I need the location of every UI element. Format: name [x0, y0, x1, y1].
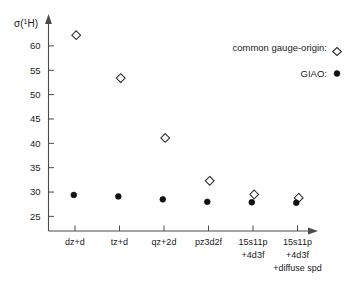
x-tick-group — [75, 226, 298, 232]
legend: common gauge-origin: GIAO: — [232, 42, 341, 79]
x-tick-label: 15s11p — [283, 237, 312, 247]
x-tick-label: qz+2d — [152, 237, 177, 247]
y-tick-group: 2530354045505560 — [30, 40, 54, 221]
x-tick-label: dz+d — [65, 237, 85, 247]
data-series-giao — [71, 192, 299, 206]
x-axis-arrowhead — [308, 228, 318, 235]
data-point-filled-circle — [249, 199, 255, 205]
data-point-open-diamond — [205, 176, 214, 185]
x-tick-label: pz3d2f — [195, 237, 223, 247]
data-series-layer — [71, 31, 303, 206]
data-point-open-diamond — [72, 31, 81, 40]
data-series-common-gauge-origin — [72, 31, 303, 202]
data-point-open-diamond — [250, 190, 259, 199]
y-axis — [45, 14, 52, 231]
y-tick-label: 30 — [30, 186, 41, 197]
data-point-open-diamond — [116, 74, 125, 83]
y-axis-title: σ(1H) — [14, 18, 38, 30]
x-label-group: dz+dtz+dqz+2dpz3d2f15s11p+4d3f15s11p+4d3… — [65, 237, 322, 273]
x-tick-label: +diffuse spd — [273, 263, 322, 273]
legend-label-giao: GIAO: — [301, 68, 327, 79]
data-point-filled-circle — [204, 199, 210, 205]
data-point-filled-circle — [115, 194, 121, 200]
data-point-filled-circle — [293, 200, 299, 206]
x-tick-label: +4d3f — [242, 250, 265, 260]
y-tick-label: 40 — [30, 138, 41, 149]
y-tick-label: 25 — [30, 211, 41, 222]
data-point-filled-circle — [71, 192, 77, 198]
legend-marker-filled-circle-icon — [334, 71, 340, 77]
x-tick-label: tz+d — [111, 237, 128, 247]
y-tick-label: 60 — [30, 40, 41, 51]
y-tick-label: 50 — [30, 89, 41, 100]
y-tick-label: 35 — [30, 162, 41, 173]
x-axis — [49, 228, 319, 235]
y-axis-arrowhead — [45, 14, 52, 24]
chart-figure: 2530354045505560 dz+dtz+dqz+2dpz3d2f15s1… — [0, 0, 347, 291]
legend-marker-open-diamond-icon — [333, 48, 342, 56]
data-point-filled-circle — [160, 196, 166, 202]
x-tick-label: +4d3f — [286, 250, 309, 260]
y-axis-title-tail: H) — [27, 18, 38, 29]
scatter-plot: 2530354045505560 dz+dtz+dqz+2dpz3d2f15s1… — [0, 0, 347, 291]
y-tick-label: 55 — [30, 65, 41, 76]
y-tick-label: 45 — [30, 113, 41, 124]
data-point-open-diamond — [161, 134, 170, 143]
legend-label-common-gauge-origin: common gauge-origin: — [232, 42, 327, 53]
x-tick-label: 15s11p — [239, 237, 268, 247]
